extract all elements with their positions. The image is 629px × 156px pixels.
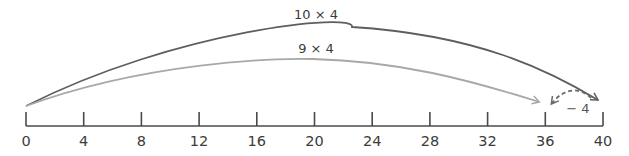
tick-marks: [26, 112, 603, 126]
tick-label-32: 32: [478, 133, 496, 149]
tick-label-40: 40: [594, 133, 612, 149]
jump-label-minus-4: − 4: [566, 101, 589, 116]
tick-labels: 0481216202428323640: [21, 133, 612, 149]
jump-label-10x4: 10 × 4: [294, 7, 338, 22]
jump-arcs: [26, 22, 598, 106]
jump-arc-9x4: [26, 59, 539, 106]
tick-label-8: 8: [137, 133, 146, 149]
tick-label-20: 20: [305, 133, 323, 149]
number-line-diagram: 10 × 4 9 × 4 − 4 0481216202428323640: [0, 0, 629, 156]
tick-label-0: 0: [21, 133, 30, 149]
tick-label-36: 36: [536, 133, 554, 149]
tick-label-24: 24: [363, 133, 381, 149]
jump-label-9x4: 9 × 4: [298, 41, 334, 56]
tick-label-12: 12: [190, 133, 208, 149]
tick-label-16: 16: [248, 133, 266, 149]
tick-label-4: 4: [79, 133, 88, 149]
tick-label-28: 28: [421, 133, 439, 149]
